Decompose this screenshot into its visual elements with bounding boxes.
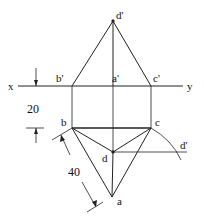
edge-c-d bbox=[113, 128, 151, 152]
label-a: a bbox=[117, 195, 122, 207]
label-bprime: b' bbox=[56, 72, 64, 84]
dimension-20-label: 20 bbox=[27, 102, 39, 116]
label-cprime: c' bbox=[153, 72, 160, 84]
axis-label-y: y bbox=[187, 80, 193, 92]
projection-lines bbox=[72, 86, 151, 152]
dot-d bbox=[112, 151, 114, 153]
dim40-top-arrowhead bbox=[60, 135, 65, 142]
axis-label-x: x bbox=[8, 80, 14, 92]
edge-c-a bbox=[112, 128, 151, 197]
edge-dprime-bprime bbox=[72, 21, 113, 86]
projection-diagram: x y d' b' a' c' b c d a d' 20 40 bbox=[0, 0, 204, 221]
dim20-top-arrowhead bbox=[34, 80, 38, 86]
dim20-bottom-arrowhead bbox=[34, 128, 38, 134]
label-b: b bbox=[61, 116, 67, 128]
dot-dprime-apex bbox=[112, 20, 114, 22]
label-c: c bbox=[155, 116, 160, 128]
edge-b-d bbox=[72, 128, 113, 152]
dimension-40-label: 40 bbox=[68, 165, 80, 179]
label-dprime-apex: d' bbox=[116, 9, 124, 21]
rotation-arc bbox=[151, 128, 181, 160]
label-dprime-rotated: d' bbox=[180, 139, 188, 151]
label-d: d bbox=[102, 152, 108, 164]
top-view bbox=[72, 128, 151, 197]
label-aprime: a' bbox=[112, 72, 119, 84]
edge-d-a bbox=[112, 152, 113, 197]
